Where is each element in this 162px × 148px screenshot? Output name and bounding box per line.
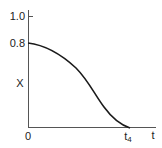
y-tick-label-1-0: 1.0	[10, 10, 25, 22]
y-tick-label-0-8: 0.8	[10, 37, 25, 49]
curve-x-of-t	[28, 43, 130, 128]
x-origin-label: 0	[25, 130, 31, 142]
x-tick-label-t4: t4	[124, 130, 132, 144]
chart: 1.0 0.8 X 0 t4 t	[0, 0, 162, 148]
x-axis-label: t	[151, 129, 154, 141]
y-axis-label: X	[16, 77, 24, 89]
x-tick-subscript: 4	[127, 135, 132, 144]
